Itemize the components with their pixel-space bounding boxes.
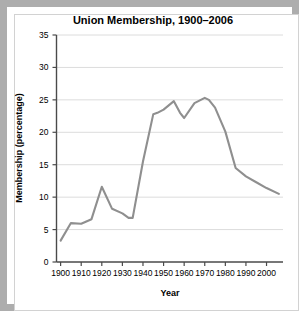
x-tick-label: 1970	[195, 268, 214, 278]
x-tick-label: 1960	[175, 268, 194, 278]
x-tick-label: 1940	[134, 268, 153, 278]
x-tick-label: 1900	[51, 268, 70, 278]
y-axis-title: Membership (percentage)	[14, 93, 24, 203]
y-axis-tick-labels: 05101520253035	[39, 30, 49, 267]
gridlines	[57, 35, 284, 230]
y-tick-label: 0	[44, 257, 49, 267]
x-tick-label: 1950	[154, 268, 173, 278]
y-tick-label: 10	[39, 192, 49, 202]
y-tick-label: 25	[39, 95, 49, 105]
x-tick-label: 1910	[72, 268, 91, 278]
x-tick-label: 1980	[216, 268, 235, 278]
line-chart: Union Membership, 1900–2006 051015202530…	[0, 0, 299, 311]
y-tick-label: 15	[39, 160, 49, 170]
x-axis-title: Year	[160, 288, 180, 298]
y-tick-label: 5	[44, 225, 49, 235]
y-tick-label: 20	[39, 127, 49, 137]
y-tick-label: 30	[39, 62, 49, 72]
y-tick-label: 35	[39, 30, 49, 40]
chart-title: Union Membership, 1900–2006	[73, 14, 233, 26]
x-tick-label: 1990	[236, 268, 255, 278]
x-tick-label: 1920	[92, 268, 111, 278]
x-axis-tick-labels: 1900191019201930194019501960197019801990…	[51, 268, 276, 278]
x-tick-label: 1930	[113, 268, 132, 278]
data-line-union-membership	[61, 98, 279, 241]
x-tick-label: 2000	[257, 268, 276, 278]
